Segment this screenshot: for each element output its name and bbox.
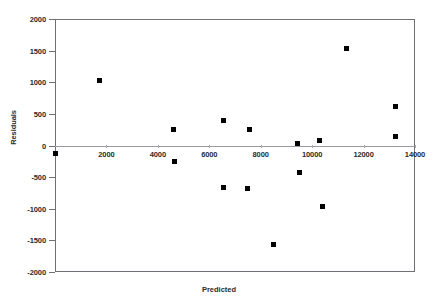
y-axis-tick-label: -2000 [0, 268, 46, 277]
data-point [247, 127, 252, 132]
data-point [97, 78, 102, 83]
y-axis-tick-label: 1500 [0, 47, 46, 56]
data-point [320, 204, 325, 209]
y-axis-tick [49, 82, 55, 83]
data-point [221, 185, 226, 190]
data-point [271, 242, 276, 247]
x-axis-tick [415, 145, 416, 148]
x-axis-tick [209, 145, 210, 148]
x-axis-title: Predicted [0, 285, 438, 294]
data-point [295, 141, 300, 146]
y-axis-tick [49, 146, 55, 147]
x-axis-tick [158, 145, 159, 148]
x-axis-tick [261, 145, 262, 148]
y-axis-tick [49, 209, 55, 210]
x-axis-tick [106, 145, 107, 148]
y-axis-tick [49, 19, 55, 20]
data-point [344, 46, 349, 51]
y-axis-tick [49, 177, 55, 178]
data-point [393, 104, 398, 109]
data-point [317, 138, 322, 143]
data-point [393, 134, 398, 139]
y-axis-tick-label: 500 [0, 110, 46, 119]
data-point [53, 151, 58, 156]
x-axis-tick [312, 145, 313, 148]
y-axis-tick [49, 240, 55, 241]
y-axis-tick [49, 272, 55, 273]
data-point [221, 118, 226, 123]
data-point [245, 186, 250, 191]
data-point [171, 127, 176, 132]
y-axis-title: Residuals [9, 88, 18, 168]
y-axis-tick-label: -500 [0, 173, 46, 182]
x-axis-tick [364, 145, 365, 148]
data-point [297, 170, 302, 175]
y-axis-tick-label: 0 [0, 142, 46, 151]
data-point [172, 159, 177, 164]
y-axis-tick-label: 2000 [0, 15, 46, 24]
zero-reference-line [55, 146, 415, 147]
y-axis-tick-label: 1000 [0, 78, 46, 87]
y-axis-tick-label: -1500 [0, 236, 46, 245]
y-axis-tick-label: -1000 [0, 205, 46, 214]
residuals-vs-predicted-chart: 2000150010005000-500-1000-1500-2000 Resi… [0, 0, 438, 306]
y-axis-tick [49, 51, 55, 52]
chart-title [0, 0, 438, 3]
x-axis-tick-label: 14000 [385, 150, 438, 159]
y-axis-tick [49, 114, 55, 115]
